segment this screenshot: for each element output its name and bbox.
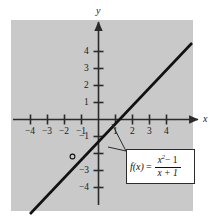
x-axis-label: x xyxy=(203,114,207,124)
x-tick-label-neg2: −2 xyxy=(59,127,69,137)
x-tick-label-2: 2 xyxy=(130,127,135,137)
x-tick-label-4: 4 xyxy=(164,127,169,137)
x-tick-label-3: 3 xyxy=(147,127,152,137)
x-tick-label-neg4: −4 xyxy=(25,127,35,137)
formula-numerator: x2− 1 xyxy=(155,154,181,167)
formula-callout-box: f(x) = x2− 1 x + 1 xyxy=(126,149,195,184)
x-tick-label-1: 1 xyxy=(113,127,118,137)
numerator-rest: − 1 xyxy=(165,155,177,165)
y-tick-label-2: 2 xyxy=(84,81,89,91)
formula-fraction: x2− 1 x + 1 xyxy=(155,154,181,179)
y-tick-label-1: 1 xyxy=(84,98,89,108)
y-tick-label-neg1: −1 xyxy=(79,132,89,142)
formula-equals-sign: = xyxy=(146,161,152,172)
formula-function-name: f(x) xyxy=(130,161,144,172)
formula-expression: f(x) = x2− 1 x + 1 xyxy=(130,154,181,179)
x-tick-label-neg3: −3 xyxy=(42,127,52,137)
function-graph-figure: −4 −3 −2 −1 1 2 3 4 4 3 2 1 −1 −3 −4 y x… xyxy=(0,0,218,216)
y-tick-label-3: 3 xyxy=(84,64,89,74)
y-tick-label-neg4: −4 xyxy=(79,183,89,193)
y-axis-label: y xyxy=(96,6,100,16)
open-circle-hole xyxy=(70,154,75,159)
formula-denominator: x + 1 xyxy=(155,168,181,179)
y-tick-label-4: 4 xyxy=(84,47,89,57)
y-tick-label-neg3: −3 xyxy=(79,166,89,176)
